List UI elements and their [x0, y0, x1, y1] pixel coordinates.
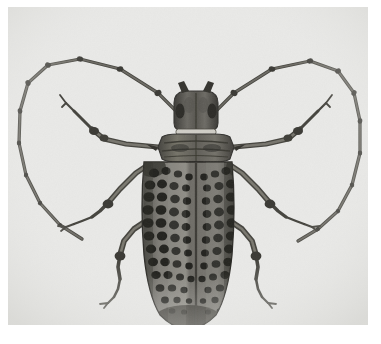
specimen-photograph — [8, 7, 368, 325]
beetle-illustration — [8, 7, 368, 325]
figure-caption — [8, 327, 368, 342]
photo-vignette — [8, 7, 368, 325]
page-canvas — [0, 0, 381, 344]
